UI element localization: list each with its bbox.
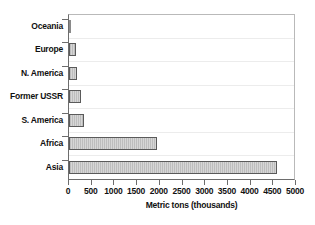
y-label-africa: Africa	[0, 138, 63, 148]
x-tick	[91, 180, 92, 185]
y-label-n-america: N. America	[0, 68, 63, 78]
x-axis-title: Metric tons (thousands)	[0, 200, 315, 210]
row-separator	[69, 85, 294, 86]
y-tick	[62, 19, 68, 20]
y-tick	[62, 89, 68, 90]
y-label-asia: Asia	[0, 162, 63, 172]
y-tick	[62, 160, 68, 161]
y-label-s-america: S. America	[0, 115, 63, 125]
x-tick	[250, 180, 251, 185]
x-tick-label-5000: 5000	[275, 186, 315, 196]
x-tick	[159, 180, 160, 185]
x-tick	[136, 180, 137, 185]
bar-s-america	[69, 114, 84, 127]
plot-area	[68, 14, 295, 180]
y-label-oceania: Oceania	[0, 21, 63, 31]
bar-chart: Oceania Europe N. America Former USSR S.…	[0, 0, 315, 225]
row-separator	[69, 155, 294, 156]
row-separator	[69, 132, 294, 133]
x-tick	[272, 180, 273, 185]
row-separator	[69, 61, 294, 62]
bar-former-ussr	[69, 90, 81, 103]
y-tick	[62, 136, 68, 137]
row-separator	[69, 38, 294, 39]
x-tick	[113, 180, 114, 185]
bar-africa	[69, 137, 157, 150]
bar-oceania	[69, 20, 71, 33]
x-tick	[204, 180, 205, 185]
x-tick	[295, 180, 296, 185]
y-tick	[62, 42, 68, 43]
x-tick	[68, 180, 69, 185]
y-label-former-ussr: Former USSR	[0, 91, 63, 101]
y-tick	[62, 66, 68, 67]
x-tick	[182, 180, 183, 185]
x-tick	[227, 180, 228, 185]
bar-asia	[69, 161, 277, 174]
y-tick	[62, 113, 68, 114]
row-separator	[69, 108, 294, 109]
bar-n-america	[69, 67, 77, 80]
bar-europe	[69, 43, 76, 56]
y-label-europe: Europe	[0, 44, 63, 54]
